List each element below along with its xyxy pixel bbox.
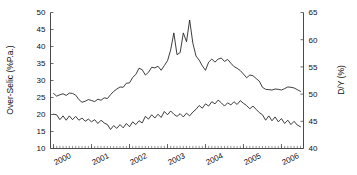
right-tick-label: 55 xyxy=(309,63,318,72)
right-tick-label: 45 xyxy=(309,117,318,126)
x-axis-tick-labels: 2000200120022003200420052006 xyxy=(53,151,301,167)
left-axis-title: Over-Selic (%P.a.) xyxy=(5,45,15,114)
left-tick-label: 30 xyxy=(37,76,46,85)
left-tick-label: 15 xyxy=(37,127,46,136)
x-tick-label: 2001 xyxy=(91,151,111,167)
right-axis-title: D/Y (%) xyxy=(336,65,346,95)
chart-figure: 101520253035404550 404550556065 20002001… xyxy=(0,0,357,175)
left-tick-label: 45 xyxy=(37,25,46,34)
right-tick-label: 60 xyxy=(309,36,318,45)
right-axis-tick-labels: 404550556065 xyxy=(309,8,318,153)
left-tick-label: 20 xyxy=(37,110,46,119)
left-tick-label: 10 xyxy=(37,144,46,153)
left-axis-tick-labels: 101520253035404550 xyxy=(37,8,46,153)
x-tick-label: 2000 xyxy=(53,151,73,167)
x-tick-label: 2002 xyxy=(128,151,148,167)
data-series-group xyxy=(54,20,301,129)
right-tick-label: 50 xyxy=(309,90,318,99)
axis-tick-marks xyxy=(51,13,304,149)
right-tick-label: 40 xyxy=(309,144,318,153)
line-chart-svg: 101520253035404550 404550556065 20002001… xyxy=(0,0,357,175)
series-line-d-y xyxy=(54,100,301,129)
right-tick-label: 65 xyxy=(309,8,318,17)
left-tick-label: 25 xyxy=(37,93,46,102)
x-tick-label: 2005 xyxy=(242,151,262,167)
left-tick-label: 50 xyxy=(37,8,46,17)
x-tick-label: 2003 xyxy=(166,151,186,167)
axis-spines xyxy=(51,13,304,149)
left-tick-label: 40 xyxy=(37,42,46,51)
left-tick-label: 35 xyxy=(37,59,46,68)
x-tick-label: 2006 xyxy=(280,151,300,167)
series-line-over-selic xyxy=(54,20,301,102)
x-tick-label: 2004 xyxy=(204,151,224,167)
